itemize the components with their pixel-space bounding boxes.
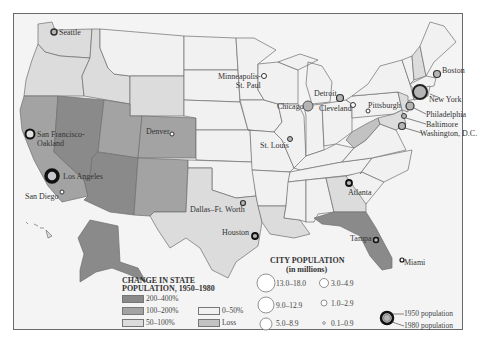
city-label-chicago: Chicago	[277, 102, 304, 111]
label-0-50: 0–50%	[222, 307, 243, 315]
state-arkansas	[252, 170, 290, 206]
city-marker-tampa	[374, 238, 379, 243]
state-kansas	[196, 130, 252, 162]
size-label-9-12: 9.0–12.9	[276, 302, 302, 310]
city-label-st-louis: St. Louis	[260, 141, 289, 150]
swatch-100-200	[122, 307, 144, 315]
city-label-detroit: Detroit	[314, 89, 337, 98]
city-marker-philadelphia	[406, 102, 414, 110]
city-label-atlanta: Atlanta	[348, 188, 372, 197]
state-arizona	[84, 152, 138, 215]
city-marker-baltimore	[402, 114, 407, 119]
swatch-200-400	[122, 295, 144, 303]
city-legend-title-2: (in millions)	[286, 265, 327, 274]
city-marker-boston	[434, 71, 441, 78]
city-label-miami: Miami	[404, 258, 425, 267]
city-label-san-francisco: San Francisco- Oakland	[37, 130, 85, 148]
swatch-50-100	[122, 319, 144, 327]
city-label-minneapolis: Minneapolis- St. Paul	[218, 72, 261, 90]
state-colorado	[138, 116, 196, 158]
key-1950-label: 1950 population	[404, 310, 453, 318]
swatch-0-50	[198, 307, 220, 315]
city-label-baltimore: Baltimore	[426, 120, 458, 129]
key-1980-label: 1980 population	[404, 322, 453, 330]
label-100-200: 100–200%	[146, 307, 179, 315]
label-loss: Loss	[222, 319, 236, 327]
city-label-minneapolis-line2: St. Paul	[218, 81, 261, 90]
label-50-100: 50–100%	[146, 319, 175, 327]
city-marker-san-diego	[60, 190, 64, 194]
size-label-1-2: 1.0–2.9	[331, 300, 354, 308]
city-marker-washington	[399, 123, 406, 130]
population-key-icon	[381, 312, 404, 326]
city-marker-seattle	[51, 29, 57, 35]
state-mississippi	[284, 180, 306, 222]
city-label-philadelphia: Philadelphia	[426, 110, 466, 119]
city-marker-atlanta	[346, 180, 352, 186]
city-marker-san-francisco	[26, 130, 35, 139]
city-marker-chicago	[303, 101, 313, 111]
state-north-dakota	[184, 36, 238, 70]
city-marker-new-york	[413, 85, 427, 99]
city-label-boston: Boston	[442, 66, 465, 75]
label-200-400: 200–400%	[146, 295, 179, 303]
city-label-tampa: Tampa	[350, 234, 372, 243]
size-label-5-8: 5.0–8.9	[276, 320, 299, 328]
city-marker-detroit	[337, 95, 344, 102]
city-marker-minneapolis	[262, 74, 267, 79]
swatch-loss	[198, 319, 220, 327]
state-hawaii	[26, 222, 52, 238]
city-label-houston: Houston	[222, 228, 249, 237]
state-new-mexico	[134, 158, 188, 216]
state-montana	[100, 29, 184, 76]
city-label-dallas: Dallas–Ft. Worth	[190, 205, 245, 214]
city-legend-title-1: CITY POPULATION	[270, 256, 344, 265]
city-label-cleveland: Cleveland	[319, 104, 351, 113]
state-wisconsin	[258, 62, 298, 104]
state-wyoming	[130, 76, 184, 116]
size-label-3-4: 3.0–4.9	[331, 280, 354, 288]
state-legend-title-2: POPULATION, 1950–1980	[122, 284, 215, 293]
city-marker-los-angeles	[46, 170, 58, 182]
size-label-13-18: 13.0–18.0	[276, 280, 306, 288]
city-label-denver: Denver	[146, 127, 170, 136]
city-label-seattle: Seattle	[59, 28, 81, 37]
city-label-sf-line2: Oakland	[37, 139, 85, 148]
city-label-new-york: New York	[429, 95, 461, 104]
city-marker-denver	[170, 132, 174, 136]
city-label-washington: Washington, D.C.	[420, 129, 477, 138]
city-label-sf-line1: San Francisco-	[37, 130, 85, 139]
state-alaska	[78, 220, 146, 282]
city-label-minneapolis-line1: Minneapolis-	[218, 72, 261, 81]
size-label-0-0: 0.1–0.9	[331, 320, 354, 328]
city-marker-houston	[252, 233, 258, 239]
city-label-pittsburgh: Pittsburgh	[368, 101, 401, 110]
city-label-san-diego: San Diego	[25, 192, 59, 201]
city-label-los-angeles: Los Angeles	[63, 172, 103, 181]
